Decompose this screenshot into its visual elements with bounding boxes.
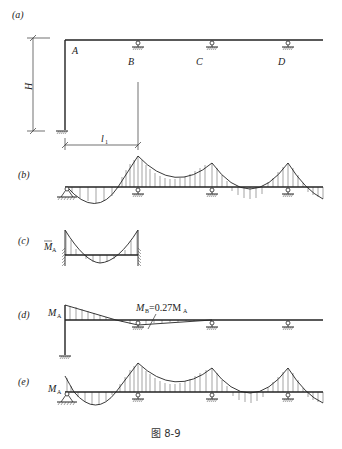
fixed-support-icon: [56, 131, 68, 134]
panel-a: (a) A B C D H l 1: [12, 9, 323, 150]
figure-caption: 图 8-9: [151, 428, 181, 439]
mb-eq-sub: A: [183, 308, 188, 314]
mb-eq-label: =0.27M: [149, 302, 181, 313]
panel-b: (b): [18, 156, 323, 204]
moment-curve-c: [65, 230, 138, 263]
panel-d-label: (d): [18, 309, 30, 321]
roller-support-c-icon: [206, 188, 218, 197]
ma-d-sub: A: [57, 313, 62, 319]
panel-c-label: (c): [18, 235, 30, 247]
dimension-h: H: [23, 35, 50, 134]
roller-support-d-icon: [282, 321, 294, 330]
roller-support-c-icon: [206, 393, 218, 402]
panel-e-label: (e): [18, 376, 30, 388]
panel-e: (e) M A: [18, 363, 323, 405]
roller-support-b-icon: [132, 41, 144, 50]
node-b-label: B: [128, 56, 134, 67]
roller-support-b-icon: [132, 188, 144, 197]
roller-support-d-icon: [282, 188, 294, 197]
fixed-support-icon: [59, 356, 71, 359]
roller-support-b-icon: [132, 393, 144, 402]
roller-support-c-icon: [206, 41, 218, 50]
dim-h-label: H: [23, 82, 34, 91]
mb-label: M: [135, 302, 145, 313]
dimension-l1: l 1: [62, 82, 141, 150]
roller-support-c-icon: [206, 321, 218, 330]
dim-l-sub: 1: [105, 139, 108, 145]
structural-figure: (a) A B C D H l 1: [0, 0, 342, 449]
dim-l-label: l: [101, 133, 104, 144]
panel-d: (d) M A M B =0.27M A: [18, 302, 323, 359]
ma-d-label: M: [47, 307, 57, 318]
moment-hatching-b: [72, 156, 323, 203]
leader-line: [148, 314, 156, 329]
roller-support-d-icon: [282, 41, 294, 50]
ma-e-sub: A: [57, 389, 62, 395]
ma-e-label: M: [47, 383, 57, 394]
panel-a-label: (a): [12, 9, 24, 21]
node-d-label: D: [277, 56, 286, 67]
node-c-label: C: [196, 56, 203, 67]
roller-support-d-icon: [282, 393, 294, 402]
panel-b-label: (b): [18, 169, 30, 181]
roller-support-b-icon: [132, 321, 144, 330]
node-a-label: A: [71, 45, 79, 56]
panel-c: (c) M A: [18, 230, 141, 266]
mbar-a-sub: A: [52, 247, 57, 253]
